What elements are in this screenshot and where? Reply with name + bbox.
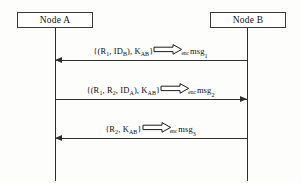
encryption-double-arrow-icon: [142, 122, 172, 136]
message-line-2: [55, 99, 247, 100]
participant-label-node-b: Node B: [233, 15, 264, 25]
message-2-operator-subscript: enc: [188, 87, 196, 98]
message-label-3: {R2, KAB} encmsg3: [55, 122, 247, 136]
message-arrowhead-2: [240, 96, 247, 102]
encryption-double-arrow-icon: [153, 44, 183, 58]
message-1-result: msg1: [190, 46, 208, 57]
message-1-operator-subscript: enc: [181, 48, 189, 59]
message-label-1: {(R1, IDB), KAB} encmsg1: [55, 44, 247, 58]
message-2-ciphertext: {(R1, R2, IDA), KAB}: [87, 85, 161, 96]
message-arrowhead-1: [55, 57, 62, 63]
message-label-2: {(R1, R2, IDA), KAB} encmsg2: [55, 83, 247, 97]
lifeline-node-b: [247, 28, 248, 181]
participant-box-node-b: Node B: [210, 12, 286, 28]
message-1-ciphertext: {(R1, IDB), KAB}: [93, 46, 153, 57]
participant-label-node-a: Node A: [40, 15, 71, 25]
encryption-double-arrow-icon: [160, 83, 190, 97]
message-arrowhead-3: [55, 135, 62, 141]
message-3-operator-subscript: enc: [170, 126, 178, 137]
sequence-diagram: Node A Node B {(R1, IDB), KAB} encmsg1 {…: [0, 0, 301, 183]
message-line-3: [55, 138, 247, 139]
message-2-result: msg2: [197, 85, 215, 96]
message-line-1: [55, 60, 247, 61]
participant-box-node-a: Node A: [17, 12, 93, 28]
message-3-ciphertext: {R2, KAB}: [105, 124, 142, 135]
message-3-result: msg3: [178, 124, 196, 135]
